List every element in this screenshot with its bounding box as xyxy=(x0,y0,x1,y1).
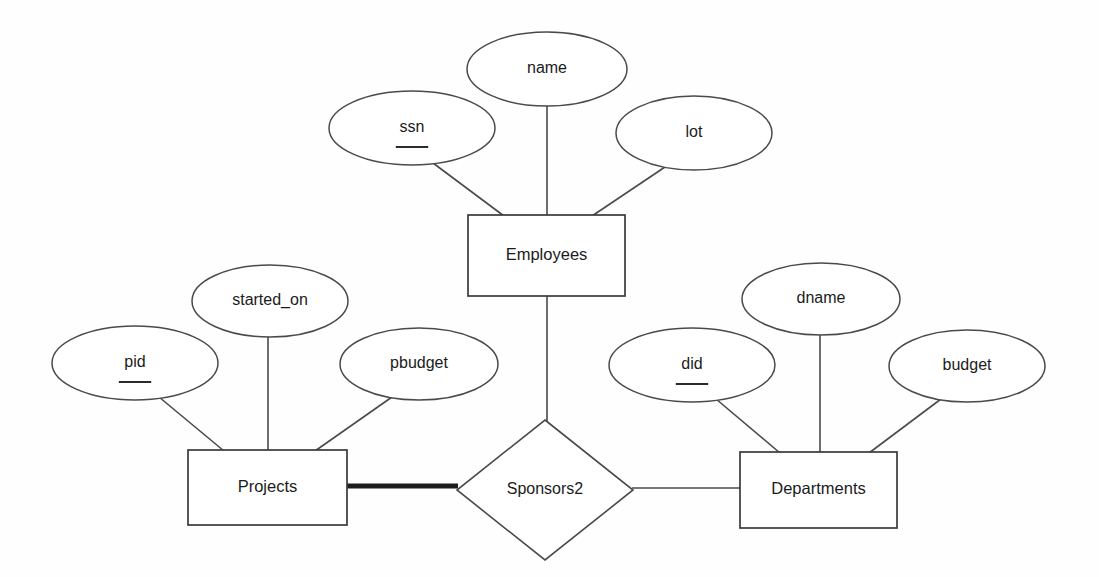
attribute-label-budget: budget xyxy=(943,356,992,373)
relationship-sponsors2[interactable]: Sponsors2 xyxy=(457,420,633,560)
attribute-lot[interactable]: lot xyxy=(616,96,772,170)
attribute-label-dname: dname xyxy=(797,289,846,306)
edge-pid-projects xyxy=(159,397,224,451)
attribute-did[interactable]: did xyxy=(609,328,775,402)
entity-label-departments: Departments xyxy=(771,479,865,497)
attribute-label-started_on: started_on xyxy=(232,291,308,309)
attribute-label-pid: pid xyxy=(124,353,145,370)
attribute-label-name: name xyxy=(527,59,567,76)
attribute-label-lot: lot xyxy=(686,123,703,140)
entity-projects[interactable]: Projects xyxy=(188,450,347,525)
er-diagram-svg: ssnnamelotpidstarted_onpbudgetdiddnamebu… xyxy=(0,0,1099,577)
edge-budget-departments xyxy=(869,399,941,453)
attribute-pbudget[interactable]: pbudget xyxy=(340,328,498,400)
edge-pbudget-projects xyxy=(315,397,392,451)
edge-did-departments xyxy=(716,399,780,453)
entity-label-employees: Employees xyxy=(506,245,588,263)
entity-label-projects: Projects xyxy=(238,477,298,495)
er-diagram-canvas: ssnnamelotpidstarted_onpbudgetdiddnamebu… xyxy=(0,0,1099,577)
nodes-layer: ssnnamelotpidstarted_onpbudgetdiddnamebu… xyxy=(52,32,1045,560)
relationship-label-sponsors2: Sponsors2 xyxy=(507,480,584,497)
attribute-budget[interactable]: budget xyxy=(889,330,1045,402)
entity-departments[interactable]: Departments xyxy=(740,452,897,528)
attribute-label-did: did xyxy=(681,355,702,372)
attribute-label-pbudget: pbudget xyxy=(390,354,448,371)
entity-employees[interactable]: Employees xyxy=(468,215,625,296)
attribute-name[interactable]: name xyxy=(467,32,627,106)
edge-lot-employees xyxy=(592,167,665,216)
attribute-pid[interactable]: pid xyxy=(52,326,218,400)
attribute-ssn[interactable]: ssn xyxy=(329,91,495,165)
attribute-dname[interactable]: dname xyxy=(742,263,900,335)
attribute-started_on[interactable]: started_on xyxy=(192,265,348,337)
edge-ssn-employees xyxy=(433,163,504,216)
attribute-label-ssn: ssn xyxy=(400,118,425,135)
